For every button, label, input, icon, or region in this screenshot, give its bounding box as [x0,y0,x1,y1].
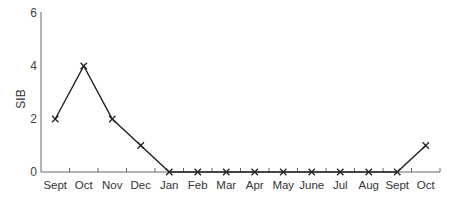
y-tick-label: 4 [27,59,37,73]
line-chart [0,0,456,202]
y-axis-label: SIB [14,84,28,114]
x-marker-icon [423,142,429,148]
x-marker-icon [52,116,58,122]
x-marker-icon [138,142,144,148]
y-tick-label: 0 [27,165,37,179]
y-tick-label: 6 [27,6,37,20]
x-marker-icon [81,63,87,69]
x-markers [52,63,429,175]
series-line [55,66,426,172]
y-tick-label: 2 [27,112,37,126]
x-tick-label: Oct [406,179,446,191]
x-marker-icon [109,116,115,122]
